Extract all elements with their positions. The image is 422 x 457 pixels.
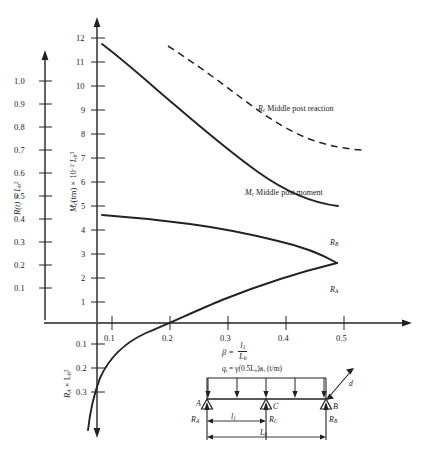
tick-left-inner-3: 3: [81, 249, 85, 259]
tick-lower-left-1: 0.1: [76, 339, 87, 349]
tick-left-inner-1: 1: [81, 297, 85, 307]
beam-reaction-label-c: RC: [269, 415, 277, 424]
beam-reaction-label-b: RB: [329, 415, 337, 424]
tick-left-inner-2: 2: [81, 273, 85, 283]
axis-title-x: β = l1 Lb: [222, 341, 249, 362]
beam-reaction-label-a: RA: [191, 415, 199, 424]
tick-left-inner-12: 12: [76, 33, 85, 43]
tick-left-inner-4: 4: [81, 225, 85, 235]
tick-left-outer-7: 0.4: [14, 214, 25, 224]
beam-load-equation: qt = γ(0.5Lb)as (t/m): [222, 364, 282, 373]
curve-rb: [102, 215, 337, 263]
curve-ra: [88, 263, 337, 430]
axis-x: [44, 316, 412, 330]
tick-left-outer-1: 1.0: [14, 76, 25, 86]
tick-left-inner-7: 7: [81, 153, 85, 163]
curve-label-ra: RA: [330, 285, 338, 294]
tick-x-2: 0.2: [162, 333, 173, 343]
tick-left-inner-6: 6: [81, 177, 85, 187]
axis-title-lower-left: RA × Lb2: [62, 369, 72, 398]
tick-left-inner-11: 11: [76, 57, 84, 67]
tick-left-outer-5: 0.6: [14, 168, 25, 178]
beam-support-label-b: B: [333, 402, 338, 411]
legend-rc-middle-post-reaction: Rc Middle post reaction: [258, 104, 333, 113]
tick-left-outer-2: 0.9: [14, 99, 25, 109]
axis-left-outer: [39, 50, 52, 320]
curve-label-rb: RB: [330, 238, 338, 247]
beam-depth-label-d: d: [349, 379, 353, 388]
tick-x-4: 0.4: [278, 333, 289, 343]
legend-mc-middle-post-moment: Mc Middle post moment: [245, 188, 323, 197]
axis-title-left-inner: Mc(tm) × 10−2 Lb3: [68, 152, 78, 212]
tick-left-inner-10: 10: [76, 81, 85, 91]
tick-lower-left-2: 0.2: [76, 363, 87, 373]
curve-rc-middle-post-reaction: [168, 46, 362, 150]
tick-left-outer-9: 0.2: [14, 260, 25, 270]
tick-x-5: 0.5: [336, 333, 347, 343]
tick-left-outer-8: 0.3: [14, 237, 25, 247]
beam-dimension-lb: Lb: [260, 428, 267, 437]
beam-support-label-a: A: [196, 399, 201, 408]
axis-title-left-outer: R(t) × Lb2: [12, 181, 22, 215]
tick-left-outer-4: 0.7: [14, 145, 25, 155]
tick-left-inner-9: 9: [81, 105, 85, 115]
tick-left-outer-3: 0.8: [14, 122, 25, 132]
axis-lower-left: [91, 323, 105, 438]
tick-lower-left-3: 0.3: [76, 387, 87, 397]
beam-dimension-l1: l1: [231, 412, 236, 421]
tick-left-inner-8: 8: [81, 129, 85, 139]
tick-x-1: 0.1: [104, 333, 115, 343]
tick-left-outer-10: 0.1: [14, 283, 25, 293]
beam-support-label-c: C: [273, 402, 278, 411]
tick-left-inner-5: 5: [81, 201, 85, 211]
axis-left-inner: [91, 17, 105, 322]
curve-mc-middle-post-moment: [102, 44, 338, 206]
